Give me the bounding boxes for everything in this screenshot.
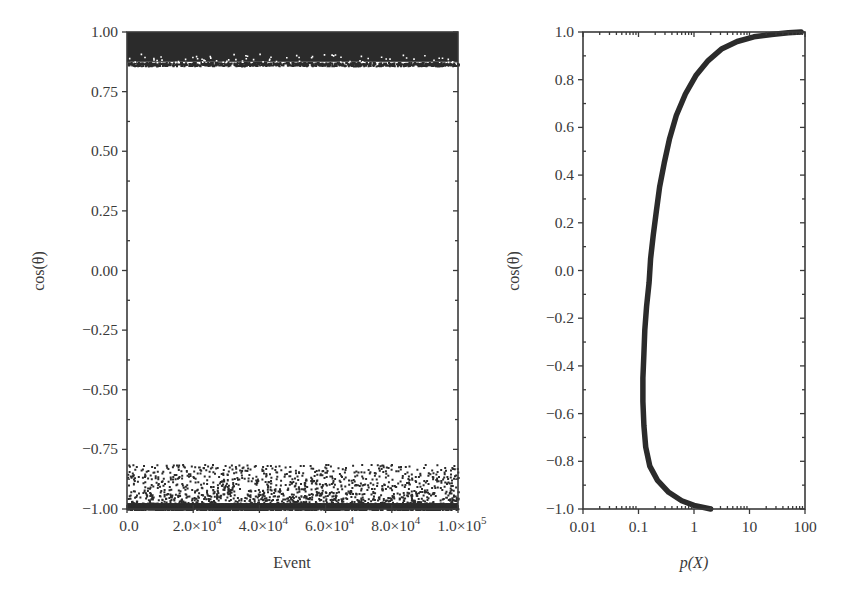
right-y-tick-label: 0.0	[555, 262, 575, 279]
figure: 1.000.750.500.250.00−0.25−0.50−0.75−1.00…	[0, 0, 852, 601]
right-y-tick-label: 0.6	[555, 118, 575, 135]
right-curve	[643, 32, 801, 509]
left-y-axis-label: cos(θ)	[30, 251, 48, 291]
right-x-tick-label: 0.01	[569, 518, 596, 535]
right-plot-frame	[583, 32, 805, 509]
right-y-axis-label: cos(θ)	[505, 251, 523, 291]
right-x-tick-label: 10	[742, 518, 758, 535]
right-x-tick-label: 0.1	[629, 518, 648, 535]
left-x-tick-label: 1.0×105	[437, 514, 487, 534]
left-x-axis-label: Event	[273, 554, 311, 571]
left-y-tick-label: 0.75	[91, 83, 118, 100]
right-y-tick-label: 0.4	[555, 166, 575, 183]
right-y-tick-label: −0.2	[546, 309, 574, 326]
left-y-tick-label: 0.50	[91, 142, 118, 159]
right-x-axis-ticks: 0.010.1110100	[569, 32, 816, 535]
right-y-tick-label: 0.2	[555, 214, 574, 231]
left-y-tick-label: −0.25	[82, 321, 118, 338]
right-x-tick-label: 100	[793, 518, 817, 535]
left-x-tick-label: 8.0×104	[371, 514, 421, 534]
right-y-tick-label: −0.6	[546, 405, 574, 422]
right-y-tick-label: −1.0	[546, 500, 574, 517]
right-x-axis-label: p(X)	[679, 554, 708, 572]
right-line-plot: 1.00.80.60.40.20.0−0.2−0.4−0.6−0.8−1.0 0…	[505, 23, 817, 572]
left-y-axis-ticks: 1.000.750.500.250.00−0.25−0.50−0.75−1.00	[82, 23, 458, 517]
left-x-tick-label: 0.0	[119, 517, 139, 534]
right-y-tick-label: −0.4	[546, 357, 574, 374]
left-y-tick-label: 1.00	[91, 23, 118, 40]
left-y-tick-label: −0.75	[82, 440, 118, 457]
left-y-tick-label: 0.25	[91, 202, 118, 219]
left-x-tick-label: 6.0×104	[305, 514, 355, 534]
right-y-tick-label: 0.8	[555, 71, 575, 88]
left-y-tick-label: −0.50	[82, 381, 118, 398]
left-plot-frame	[127, 32, 458, 509]
left-y-tick-label: −1.00	[82, 500, 118, 517]
right-y-tick-label: 1.0	[555, 23, 575, 40]
left-x-tick-label: 2.0×104	[173, 514, 223, 534]
left-x-tick-label: 4.0×104	[239, 514, 289, 534]
left-scatter-plot: 1.000.750.500.250.00−0.25−0.50−0.75−1.00…	[30, 23, 487, 571]
left-scatter-points	[127, 32, 460, 511]
right-x-tick-label: 1	[690, 518, 698, 535]
left-y-tick-label: 0.00	[91, 262, 118, 279]
right-y-tick-label: −0.8	[546, 452, 574, 469]
right-y-axis-ticks: 1.00.80.60.40.20.0−0.2−0.4−0.6−0.8−1.0	[546, 23, 805, 517]
